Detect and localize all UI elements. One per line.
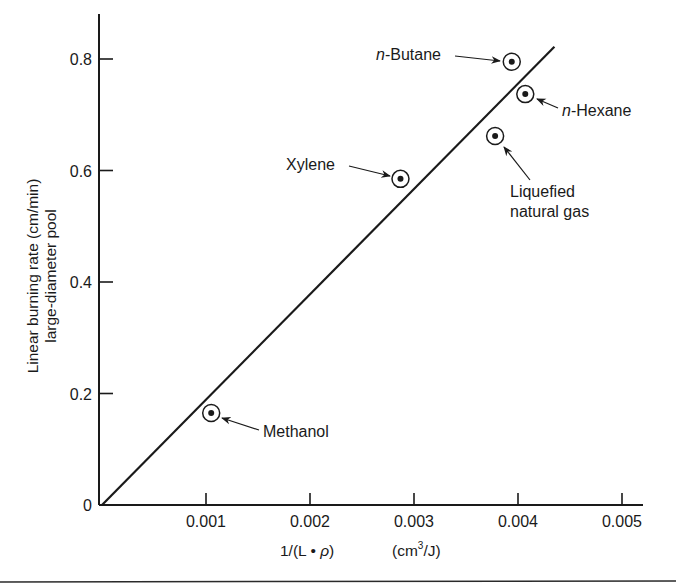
dot-icon <box>492 133 498 139</box>
x-tick-label: 0.002 <box>290 513 330 530</box>
arrow-icon <box>455 56 500 61</box>
x-ticks: 0.0010.0020.0030.0040.005 <box>186 493 642 530</box>
data-point <box>203 405 220 422</box>
chart: 00.20.40.60.8 0.0010.0020.0030.0040.005 … <box>0 0 676 588</box>
y-tick-label: 0 <box>83 497 92 514</box>
arrow-icon <box>504 147 530 180</box>
annotation-text: Xylene <box>286 156 335 173</box>
svg-text:1/(L • ρ): 1/(L • ρ) <box>280 542 334 559</box>
dot-icon <box>509 59 515 65</box>
annotation-italic-n: n <box>376 46 385 63</box>
svg-text:n-Butane: n-Butane <box>376 46 441 63</box>
svg-text:(cm3/J): (cm3/J) <box>392 540 441 559</box>
annotation-text: natural gas <box>510 203 589 220</box>
data-point <box>517 86 534 103</box>
annotation-xylene: Xylene <box>286 156 390 176</box>
y-tick-label: 0.8 <box>70 51 92 68</box>
annotation-italic-n: n <box>562 102 571 119</box>
svg-text:n-Hexane: n-Hexane <box>562 102 631 119</box>
arrow-icon <box>222 418 259 430</box>
y-axis-title-line1: Linear burning rate (cm/min) <box>24 179 41 374</box>
x-tick-label: 0.004 <box>498 513 538 530</box>
x-tick-label: 0.003 <box>394 513 434 530</box>
dot-icon <box>208 410 214 416</box>
x-tick-label: 0.005 <box>602 513 642 530</box>
y-axis-title-line2: large-diameter pool <box>42 209 59 343</box>
y-tick-label: 0.4 <box>70 274 92 291</box>
data-point <box>503 53 520 70</box>
annotation-n-hexane: n-Hexane <box>537 99 631 119</box>
data-points <box>203 53 534 421</box>
annotations: n-Butane n-Hexane Xylene Liquefied natur… <box>222 46 631 440</box>
dot-icon <box>522 91 528 97</box>
x-axis-title: 1/(L • ρ) (cm3/J) <box>280 540 441 559</box>
bottom-separator <box>0 581 676 582</box>
annotation-text: Liquefied <box>510 183 575 200</box>
annotation-n-butane: n-Butane <box>376 46 500 63</box>
y-axis-title: Linear burning rate (cm/min) large-diame… <box>24 179 59 374</box>
annotation-methanol: Methanol <box>222 418 329 440</box>
dot-icon <box>397 176 403 182</box>
arrow-icon <box>349 166 390 176</box>
annotation-text: Methanol <box>263 423 329 440</box>
y-ticks: 00.20.40.60.8 <box>70 51 113 514</box>
x-tick-label: 0.001 <box>186 513 226 530</box>
annotation-text: -Butane <box>385 46 441 63</box>
arrow-icon <box>537 99 558 108</box>
y-tick-label: 0.2 <box>70 386 92 403</box>
data-point <box>392 170 409 187</box>
data-point <box>487 127 504 144</box>
annotation-lng: Liquefied natural gas <box>504 147 589 220</box>
annotation-text: -Hexane <box>571 102 632 119</box>
y-tick-label: 0.6 <box>70 163 92 180</box>
axes <box>99 14 643 505</box>
